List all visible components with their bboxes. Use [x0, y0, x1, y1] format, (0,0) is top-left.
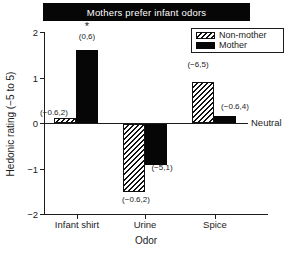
annotation-spice-mother: (−0.6,4)	[221, 103, 249, 111]
y-tick	[40, 78, 44, 79]
annotation-urine-mother: (−5,1)	[151, 164, 172, 172]
bar-infant-shirt-non-mother	[54, 118, 76, 123]
annotation-urine-non-mother: (−0.6,2)	[122, 196, 150, 204]
category-label-urine: Urine	[134, 220, 157, 230]
y-tick-label: −2	[16, 210, 38, 220]
category-label-spice: Spice	[203, 220, 227, 230]
significance-marker: *	[85, 21, 89, 32]
y-tick-label: 0	[16, 119, 38, 129]
legend-label-mother: Mother	[219, 41, 247, 50]
annotation-spice-non-mother: (−6,5)	[187, 61, 208, 69]
y-axis-title: Hedonic rating (−5 to 5)	[6, 72, 16, 177]
figure: Mothers prefer infant odors Non-mother M…	[0, 0, 290, 254]
annotation-infant-shirt-mother: (0,6)	[79, 33, 95, 41]
y-tick-label: 2	[16, 28, 38, 38]
non-mother-swatch-icon	[196, 32, 215, 39]
y-tick-label: 1	[16, 74, 38, 84]
mother-swatch-icon	[196, 42, 215, 49]
category-label-infant-shirt: Infant shirt	[55, 220, 99, 230]
legend-item-non-mother: Non-mother	[196, 31, 283, 40]
bar-infant-shirt-mother	[76, 50, 98, 123]
annotation-infant-shirt-non-mother: (−0.6,2)	[40, 109, 68, 117]
legend: Non-mother Mother	[191, 28, 284, 53]
y-tick	[40, 214, 44, 215]
y-tick	[40, 169, 44, 170]
x-axis-title: Odor	[135, 236, 157, 246]
legend-item-mother: Mother	[196, 41, 283, 50]
bar-urine-mother	[145, 124, 167, 165]
legend-label-non-mother: Non-mother	[219, 31, 267, 40]
y-tick	[40, 123, 44, 124]
y-tick-label: −1	[16, 165, 38, 175]
bar-spice-mother	[214, 116, 236, 123]
bar-urine-non-mother	[123, 124, 145, 192]
y-tick	[40, 32, 44, 33]
bar-spice-non-mother	[192, 82, 214, 123]
title-banner: Mothers prefer infant odors	[43, 3, 250, 21]
neutral-label: Neutral	[251, 118, 282, 128]
